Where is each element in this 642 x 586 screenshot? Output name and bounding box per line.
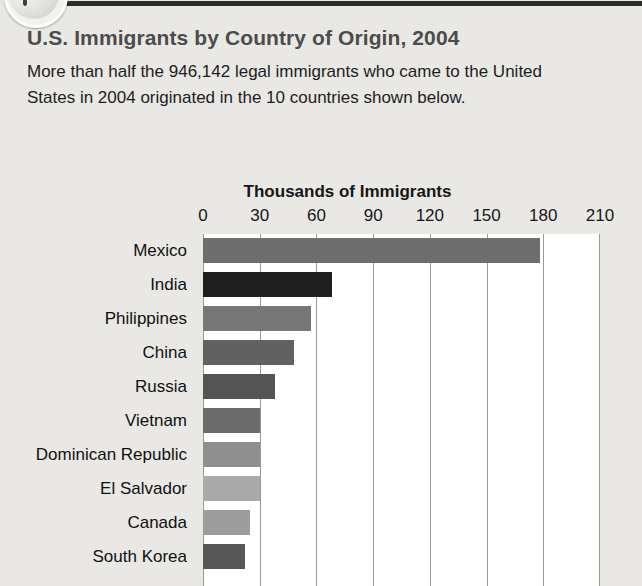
bar-chart: Thousands of Immigrants 0306090120150180… (0, 182, 642, 586)
bar-row (203, 302, 600, 336)
bar-row (203, 404, 600, 438)
bar (203, 544, 245, 569)
category-label: Mexico (0, 234, 195, 268)
category-axis-labels: MexicoIndiaPhilippinesChinaRussiaVietnam… (0, 234, 195, 586)
bar-row (203, 540, 600, 574)
category-label: China (0, 336, 195, 370)
category-label: El Salvador (0, 472, 195, 506)
chart-title: Thousands of Immigrants (0, 182, 642, 202)
bar-row (203, 438, 600, 472)
intro-paragraph: More than half the 946,142 legal immigra… (27, 59, 583, 111)
bar-row (203, 472, 600, 506)
x-tick-label-120: 120 (416, 206, 444, 226)
globe-sphere (9, 0, 59, 19)
globe-icon (4, 0, 68, 28)
bar (203, 306, 311, 331)
header-rule (59, 1, 642, 6)
category-label: Dominican Republic (0, 438, 195, 472)
globe-landmass-tail (23, 0, 27, 6)
x-tick-label-30: 30 (250, 206, 269, 226)
bar-row (203, 336, 600, 370)
x-tick-label-210: 210 (586, 206, 614, 226)
page-title: U.S. Immigrants by Country of Origin, 20… (27, 26, 617, 50)
bars-layer (203, 234, 600, 586)
bar-row (203, 506, 600, 540)
bar-row (203, 370, 600, 404)
category-label: Philippines (0, 302, 195, 336)
x-tick-label-150: 150 (472, 206, 500, 226)
category-label: Vietnam (0, 404, 195, 438)
x-tick-label-0: 0 (198, 206, 207, 226)
bar (203, 272, 332, 297)
bar (203, 476, 260, 501)
category-label: Russia (0, 370, 195, 404)
x-tick-label-60: 60 (307, 206, 326, 226)
bar (203, 408, 260, 433)
category-label: India (0, 268, 195, 302)
bar-row (203, 268, 600, 302)
x-tick-label-180: 180 (529, 206, 557, 226)
bar (203, 238, 540, 263)
bar (203, 374, 275, 399)
bar-row (203, 234, 600, 268)
headline-block: U.S. Immigrants by Country of Origin, 20… (27, 26, 617, 111)
x-axis-tick-labels: 0306090120150180210 (0, 206, 642, 230)
bar (203, 340, 294, 365)
x-tick-label-90: 90 (364, 206, 383, 226)
category-label: South Korea (0, 540, 195, 574)
bar (203, 510, 250, 535)
bar (203, 442, 260, 467)
category-label: Canada (0, 506, 195, 540)
